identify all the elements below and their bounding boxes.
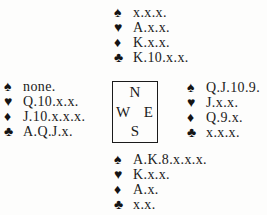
south-diamonds-row: ♦ A.x. — [114, 182, 207, 197]
east-hand: ♠ Q.J.10.9. ♥ J.x.x. ♦ Q.9.x. ♣ x.x.x. — [187, 80, 260, 140]
heart-icon: ♥ — [114, 167, 133, 182]
west-hearts-row: ♥ Q.10.x.x. — [4, 94, 85, 109]
north-spades-row: ♠ x.x.x. — [114, 5, 189, 20]
east-spades-row: ♠ Q.J.10.9. — [187, 80, 260, 95]
spade-icon: ♠ — [187, 80, 206, 95]
heart-icon: ♥ — [4, 94, 23, 109]
east-hearts-cards: J.x.x. — [206, 95, 238, 110]
diamond-icon: ♦ — [114, 182, 133, 197]
south-spades-cards: A.K.8.x.x.x. — [133, 152, 207, 167]
east-clubs-row: ♣ x.x.x. — [187, 125, 260, 140]
south-hearts-row: ♥ K.x.x. — [114, 167, 207, 182]
club-icon: ♣ — [114, 50, 133, 65]
west-clubs-row: ♣ A.Q.J.x. — [4, 124, 85, 139]
compass-box: N W E S — [112, 81, 158, 143]
south-hearts-cards: K.x.x. — [133, 167, 170, 182]
bridge-deal-diagram: ♠ x.x.x. ♥ A.x.x. ♦ K.x.x. ♣ K.10.x.x. ♠… — [0, 0, 267, 215]
north-hand: ♠ x.x.x. ♥ A.x.x. ♦ K.x.x. ♣ K.10.x.x. — [114, 5, 189, 65]
compass-west-label: W — [116, 105, 130, 120]
spade-icon: ♠ — [4, 79, 23, 94]
west-clubs-cards: A.Q.J.x. — [23, 124, 73, 139]
west-diamonds-row: ♦ J.10.x.x.x. — [4, 109, 85, 124]
compass-north-label: N — [130, 85, 141, 100]
west-spades-cards: none. — [23, 79, 56, 94]
south-diamonds-cards: A.x. — [133, 182, 159, 197]
diamond-icon: ♦ — [4, 109, 23, 124]
north-clubs-row: ♣ K.10.x.x. — [114, 50, 189, 65]
diamond-icon: ♦ — [187, 110, 206, 125]
spade-icon: ♠ — [114, 152, 133, 167]
north-hearts-cards: A.x.x. — [133, 20, 170, 35]
west-hearts-cards: Q.10.x.x. — [23, 94, 79, 109]
east-spades-cards: Q.J.10.9. — [206, 80, 260, 95]
west-spades-row: ♠ none. — [4, 79, 85, 94]
north-diamonds-row: ♦ K.x.x. — [114, 35, 189, 50]
north-clubs-cards: K.10.x.x. — [133, 50, 189, 65]
compass-east-label: E — [144, 105, 153, 120]
east-diamonds-cards: Q.9.x. — [206, 110, 243, 125]
west-diamonds-cards: J.10.x.x.x. — [23, 109, 85, 124]
compass-south-label: S — [131, 124, 139, 139]
heart-icon: ♥ — [187, 95, 206, 110]
south-spades-row: ♠ A.K.8.x.x.x. — [114, 152, 207, 167]
east-diamonds-row: ♦ Q.9.x. — [187, 110, 260, 125]
south-clubs-row: ♣ x.x. — [114, 197, 207, 212]
spade-icon: ♠ — [114, 5, 133, 20]
north-hearts-row: ♥ A.x.x. — [114, 20, 189, 35]
club-icon: ♣ — [4, 124, 23, 139]
east-hearts-row: ♥ J.x.x. — [187, 95, 260, 110]
east-clubs-cards: x.x.x. — [206, 125, 240, 140]
north-spades-cards: x.x.x. — [133, 5, 167, 20]
club-icon: ♣ — [114, 197, 133, 212]
diamond-icon: ♦ — [114, 35, 133, 50]
west-hand: ♠ none. ♥ Q.10.x.x. ♦ J.10.x.x.x. ♣ A.Q.… — [4, 79, 85, 139]
north-diamonds-cards: K.x.x. — [133, 35, 170, 50]
heart-icon: ♥ — [114, 20, 133, 35]
south-hand: ♠ A.K.8.x.x.x. ♥ K.x.x. ♦ A.x. ♣ x.x. — [114, 152, 207, 212]
club-icon: ♣ — [187, 125, 206, 140]
south-clubs-cards: x.x. — [133, 197, 156, 212]
